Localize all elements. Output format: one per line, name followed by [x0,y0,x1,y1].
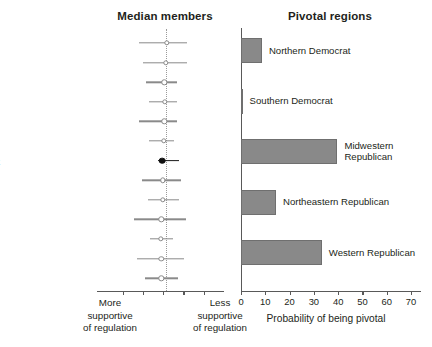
bar-label-line: Republican [344,151,393,163]
median-members-forest-plot: Moresupportiveof regulation Lesssupporti… [0,0,224,347]
bar-axis-tick [338,291,339,295]
left-axis-tick [183,291,184,295]
bar-axis-tick-label: 70 [406,296,416,307]
left-axis-tick [204,291,205,295]
bar-chart-x-axis [241,291,421,292]
estimate-marker [163,60,168,65]
figure-canvas: Median members Pivotal regions Moresuppo… [0,0,432,347]
bar [241,139,337,164]
left-axis-tick [143,291,144,295]
left-axis-tick [123,291,124,295]
bar-axis-tick-label: 60 [381,296,391,307]
axis-caption-line: More [66,297,154,309]
bar-category-label: Western Republican [329,247,415,259]
bar-axis-tick [265,291,266,295]
bar-axis-tick [241,291,242,295]
bar-axis-tick-label: 10 [260,296,270,307]
bar-axis-tick-label: 40 [333,296,343,307]
estimate-marker [164,40,169,45]
estimate-marker [160,197,165,202]
bar [241,240,322,265]
estimate-marker [159,217,164,222]
bar-axis-tick [362,291,363,295]
bar-category-label: Northeastern Republican [283,196,389,208]
left-panel-x-axis [97,291,224,292]
bar-axis-tick [314,291,315,295]
axis-caption-more-supportive: Moresupportiveof regulation [66,297,154,334]
bar-axis-tick-label: 30 [309,296,319,307]
estimate-marker [158,236,163,241]
axis-caption-line: of regulation [66,322,154,334]
bar-axis-tick [411,291,412,295]
bar-axis-tick-label: 50 [357,296,367,307]
bar-label-line: Southern Democrat [250,95,333,107]
bar-label-line: Northern Democrat [269,45,351,57]
bar-label-line: Western Republican [329,247,415,259]
bar [241,89,243,114]
estimate-marker [159,275,164,280]
pivotal-regions-bar-chart: Northern DemocratSouthern DemocratMidwes… [224,0,432,347]
bar [241,190,276,215]
bar-chart-x-axis-label: Probability of being pivotal [241,313,411,324]
bar [241,38,262,63]
bar-axis-tick-label: 0 [238,296,243,307]
bar-category-label: Southern Democrat [250,95,333,107]
bar-axis-tick-label: 20 [284,296,294,307]
bar-axis-tick [290,291,291,295]
estimate-marker [160,177,165,182]
axis-caption-line: supportive [66,310,154,322]
bar-label-line: Northeastern Republican [283,196,389,208]
bar-label-line: Midwestern [344,140,393,152]
bar-category-label: MidwesternRepublican [344,140,393,163]
confidence-interval-line [139,121,177,122]
median-pivot-marker [159,157,166,164]
bar-category-label: Northern Democrat [269,45,351,57]
left-axis-tick [163,291,164,295]
estimate-marker [159,256,164,261]
bar-axis-tick [387,291,388,295]
